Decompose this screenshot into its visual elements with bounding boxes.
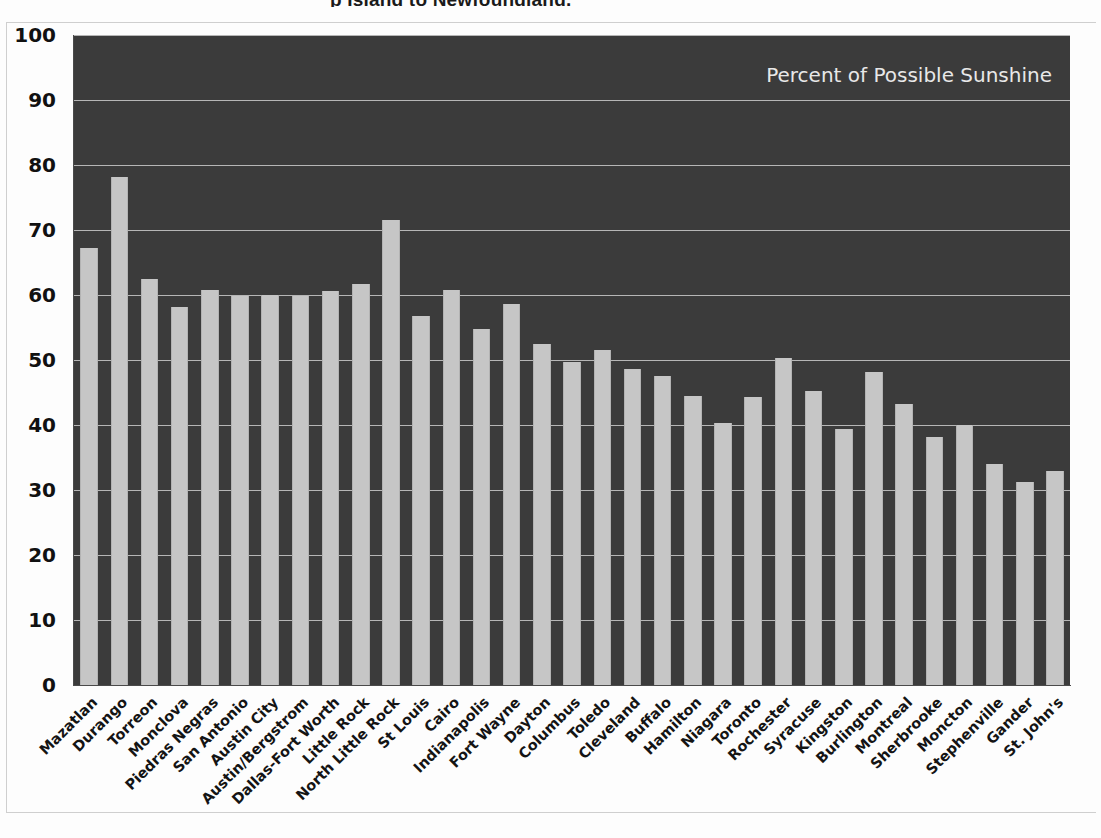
bar-slot xyxy=(497,35,527,685)
y-tick-label: 0 xyxy=(42,673,56,697)
bar[interactable] xyxy=(986,464,1004,685)
y-tick-label: 70 xyxy=(28,218,56,242)
x-label-slot: Durango xyxy=(104,690,134,830)
y-tick-label: 10 xyxy=(28,608,56,632)
bar-slot xyxy=(708,35,738,685)
bar[interactable] xyxy=(443,290,461,685)
bar-slot xyxy=(949,35,979,685)
bar-slot xyxy=(527,35,557,685)
bar-slot xyxy=(1040,35,1070,685)
bar[interactable] xyxy=(624,369,642,685)
x-label-slot: Fort Wayne xyxy=(497,690,527,830)
bar[interactable] xyxy=(352,284,370,685)
x-label-slot: Toronto xyxy=(738,690,768,830)
cropped-page-headline: p Island to Newfoundland. xyxy=(330,0,1100,7)
bar-slot xyxy=(919,35,949,685)
sunshine-bar-chart-figure: p Island to Newfoundland. Percent of Pos… xyxy=(0,0,1101,838)
bar[interactable] xyxy=(835,429,853,685)
bar[interactable] xyxy=(231,296,249,685)
x-axis-line xyxy=(73,685,1071,686)
bar[interactable] xyxy=(805,391,823,685)
x-label-slot: North Little Rock xyxy=(376,690,406,830)
bar[interactable] xyxy=(714,423,732,685)
bar-slot xyxy=(557,35,587,685)
y-tick-label: 60 xyxy=(28,283,56,307)
bar-slot xyxy=(346,35,376,685)
bar-slot xyxy=(376,35,406,685)
y-tick-label: 30 xyxy=(28,478,56,502)
bar-slot xyxy=(195,35,225,685)
bar[interactable] xyxy=(865,372,883,685)
x-label-slot: Stephenville xyxy=(979,690,1009,830)
y-tick-label: 90 xyxy=(28,88,56,112)
bar-slot xyxy=(980,35,1010,685)
y-tick-label: 100 xyxy=(14,23,56,47)
bar-slot xyxy=(316,35,346,685)
bar-slot xyxy=(1010,35,1040,685)
x-label-slot: Columbus xyxy=(557,690,587,830)
bar-series xyxy=(74,35,1070,685)
x-label-slot: Montreal xyxy=(889,690,919,830)
bar-slot xyxy=(678,35,708,685)
plot-area: Percent of Possible Sunshine xyxy=(74,35,1070,685)
y-axis-tick-labels: 1009080706050403020100 xyxy=(0,35,66,685)
x-axis-category-labels: MazatlanDurangoTorreonMonclovaPiedras Ne… xyxy=(74,690,1070,830)
chart-annotation-label: Percent of Possible Sunshine xyxy=(766,63,1052,87)
bar-slot xyxy=(648,35,678,685)
x-label-slot: Buffalo xyxy=(647,690,677,830)
bar[interactable] xyxy=(80,248,98,685)
bar-slot xyxy=(134,35,164,685)
x-label-slot: Dayton xyxy=(527,690,557,830)
x-label-slot: Little Rock xyxy=(346,690,376,830)
x-label-slot: Mazatlan xyxy=(74,690,104,830)
x-label-slot: Kingston xyxy=(829,690,859,830)
bar[interactable] xyxy=(171,307,189,685)
bar[interactable] xyxy=(201,290,219,685)
bar[interactable] xyxy=(473,329,491,685)
bar-slot xyxy=(859,35,889,685)
bar[interactable] xyxy=(533,344,551,685)
bar[interactable] xyxy=(563,362,581,685)
bar[interactable] xyxy=(412,316,430,685)
bar[interactable] xyxy=(1016,482,1034,685)
bar[interactable] xyxy=(744,397,762,685)
x-label-slot: St. John's xyxy=(1040,690,1070,830)
bar[interactable] xyxy=(594,350,612,685)
x-label-slot: Rochester xyxy=(768,690,798,830)
y-tick-label: 50 xyxy=(28,348,56,372)
x-label-slot: Toledo xyxy=(587,690,617,830)
bar[interactable] xyxy=(111,177,129,685)
bar-slot xyxy=(165,35,195,685)
bar-slot xyxy=(799,35,829,685)
bar[interactable] xyxy=(382,220,400,685)
y-tick-label: 40 xyxy=(28,413,56,437)
bar-slot xyxy=(889,35,919,685)
x-label-slot: Indianapolis xyxy=(466,690,496,830)
x-label-slot: Gander xyxy=(1010,690,1040,830)
bar-slot xyxy=(285,35,315,685)
bar-slot xyxy=(74,35,104,685)
bar-slot xyxy=(738,35,768,685)
bar[interactable] xyxy=(775,358,793,685)
x-label-slot: Moncton xyxy=(949,690,979,830)
x-label-slot: Hamilton xyxy=(678,690,708,830)
x-label-slot: Cleveland xyxy=(617,690,647,830)
bar-slot xyxy=(406,35,436,685)
bar[interactable] xyxy=(956,425,974,685)
bar[interactable] xyxy=(261,295,279,685)
bar[interactable] xyxy=(895,404,913,685)
bar[interactable] xyxy=(292,296,310,685)
bar[interactable] xyxy=(141,279,159,685)
bar[interactable] xyxy=(1046,471,1064,686)
bar-slot xyxy=(436,35,466,685)
bar[interactable] xyxy=(654,376,672,685)
bar-slot xyxy=(466,35,496,685)
bar[interactable] xyxy=(503,304,521,685)
bar[interactable] xyxy=(322,291,340,685)
bar-slot xyxy=(829,35,859,685)
bar-slot xyxy=(104,35,134,685)
page-frame-top-rule xyxy=(6,22,1096,23)
bar[interactable] xyxy=(684,396,702,685)
bar-slot xyxy=(617,35,647,685)
bar[interactable] xyxy=(926,437,944,685)
